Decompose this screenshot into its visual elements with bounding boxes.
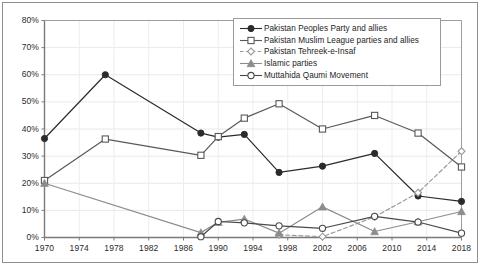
legend-item: Pakistan Tehreek-e-Insaf — [238, 46, 435, 58]
marker-filled-circle — [276, 169, 282, 175]
data-point-marker — [276, 223, 282, 229]
data-point-marker — [241, 131, 247, 137]
data-point-marker — [198, 130, 204, 136]
x-axis-tick-label: 1986 — [167, 243, 201, 253]
marker-open-square — [415, 130, 421, 136]
data-point-marker — [241, 115, 247, 121]
data-point-marker — [319, 163, 325, 169]
data-point-marker — [248, 37, 254, 43]
marker-open-square — [248, 37, 254, 43]
marker-open-circle — [241, 220, 247, 226]
y-axis-tick-label: 50% — [2, 96, 39, 106]
y-axis-tick-label: 40% — [2, 124, 39, 134]
data-point-marker — [415, 130, 421, 136]
data-point-marker — [319, 233, 326, 240]
series-line — [279, 151, 461, 236]
marker-open-circle — [372, 213, 378, 219]
data-point-marker — [458, 198, 464, 204]
y-axis-tick-label: 60% — [2, 69, 39, 79]
marker-open-square — [241, 115, 247, 121]
marker-filled-circle — [102, 72, 108, 78]
legend-label: Pakistan Peoples Party and allies — [264, 23, 387, 34]
data-point-marker — [241, 220, 247, 226]
legend-item: Pakistan Peoples Party and allies — [238, 23, 435, 35]
marker-open-square — [215, 133, 221, 139]
data-point-marker — [275, 229, 283, 236]
marker-open-circle — [276, 223, 282, 229]
data-point-marker — [276, 169, 282, 175]
x-axis-tick-label: 2018 — [445, 243, 479, 253]
marker-filled-circle — [458, 198, 464, 204]
legend-marker-icon — [238, 58, 264, 69]
marker-filled-circle — [319, 163, 325, 169]
data-point-marker — [198, 234, 204, 240]
x-axis-tick-label: 2006 — [340, 243, 374, 253]
marker-open-circle — [415, 219, 421, 225]
legend-marker-icon — [238, 23, 264, 34]
marker-filled-circle — [241, 131, 247, 137]
legend-marker-icon — [238, 35, 264, 46]
data-point-marker — [102, 136, 108, 142]
data-point-marker — [372, 112, 378, 118]
y-axis-tick-label: 30% — [2, 151, 39, 161]
data-point-marker — [372, 213, 378, 219]
series-4 — [198, 213, 465, 240]
marker-open-square — [372, 112, 378, 118]
marker-open-square — [102, 136, 108, 142]
data-point-marker — [415, 219, 421, 225]
legend-label: Pakistan Tehreek-e-Insaf — [264, 46, 356, 57]
marker-filled-triangle — [275, 229, 283, 236]
x-axis-tick-label: 1990 — [201, 243, 235, 253]
y-axis-tick-label: 0% — [2, 232, 39, 242]
x-axis-tick-label: 1998 — [271, 243, 305, 253]
data-point-marker — [319, 225, 325, 231]
marker-open-square — [319, 126, 325, 132]
x-axis-tick-label: 1994 — [236, 243, 270, 253]
data-point-marker — [215, 133, 221, 139]
chart-legend: Pakistan Peoples Party and alliesPakista… — [233, 18, 441, 86]
marker-filled-circle — [41, 135, 47, 141]
x-axis-tick-label: 2002 — [306, 243, 340, 253]
x-axis-tick-label: 1982 — [132, 243, 166, 253]
y-axis-tick-label: 20% — [2, 178, 39, 188]
marker-filled-triangle — [319, 203, 327, 210]
data-point-marker — [319, 126, 325, 132]
data-point-marker — [248, 26, 254, 32]
marker-filled-circle — [372, 150, 378, 156]
marker-open-circle — [319, 225, 325, 231]
marker-filled-triangle — [458, 208, 466, 215]
data-point-marker — [248, 48, 255, 55]
x-axis-tick-label: 2014 — [410, 243, 444, 253]
marker-filled-circle — [198, 130, 204, 136]
data-point-marker — [215, 218, 221, 224]
chart-figure: 0%10%20%30%40%50%60%70%80%19701974197819… — [0, 0, 480, 265]
data-point-marker — [458, 208, 466, 215]
marker-filled-circle — [248, 26, 254, 32]
marker-open-square — [198, 152, 204, 158]
legend-label: Pakistan Muslim League parties and allie… — [264, 35, 419, 46]
legend-item: Muttahida Qaumi Movement — [238, 69, 435, 81]
data-point-marker — [41, 135, 47, 141]
data-point-marker — [276, 101, 282, 107]
marker-open-circle — [248, 72, 254, 78]
marker-open-diamond — [319, 233, 326, 240]
legend-label: Islamic parties — [264, 58, 317, 69]
marker-open-circle — [215, 218, 221, 224]
marker-open-circle — [198, 234, 204, 240]
data-point-marker — [102, 72, 108, 78]
data-point-marker — [458, 164, 464, 170]
x-axis-tick-label: 1974 — [62, 243, 96, 253]
y-axis-tick-label: 80% — [2, 15, 39, 25]
x-axis-tick-label: 1978 — [97, 243, 131, 253]
x-axis-tick-label: 2010 — [375, 243, 409, 253]
data-point-marker — [458, 230, 464, 236]
legend-item: Islamic parties — [238, 58, 435, 70]
legend-item: Pakistan Muslim League parties and allie… — [238, 35, 435, 47]
data-point-marker — [248, 72, 254, 78]
marker-open-square — [276, 101, 282, 107]
y-axis-tick-label: 70% — [2, 42, 39, 52]
legend-marker-icon — [238, 70, 264, 81]
data-point-marker — [198, 152, 204, 158]
data-point-marker — [319, 203, 327, 210]
x-axis-tick-label: 1970 — [28, 243, 62, 253]
